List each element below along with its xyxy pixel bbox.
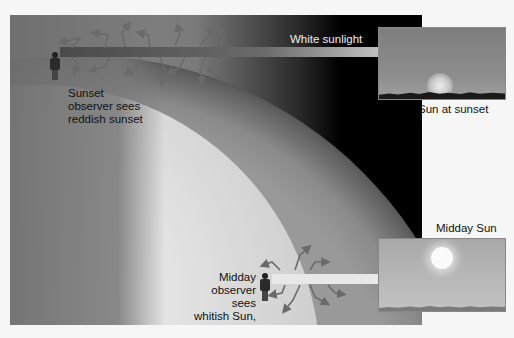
white-sunlight-label: White sunlight (290, 33, 362, 46)
sun-at-sunset-caption: Sun at sunset (418, 103, 488, 116)
sunset-observer-label: Sunset observer sees reddish sunset (68, 87, 143, 126)
sunset-inset-image (378, 27, 506, 100)
skyline-silhouette (379, 306, 505, 311)
midday-observer-label: Midday observer sees whitish Sun, blue s… (188, 271, 256, 325)
midday-observer-figure (260, 273, 270, 301)
sunset-observer-figure (50, 52, 60, 80)
midday-sun-caption: Midday Sun (436, 222, 497, 235)
diagram-panel: Sunset observer sees reddish sunset Midd… (10, 15, 422, 325)
midday-sun-icon (431, 247, 453, 269)
midday-inset-image (378, 238, 506, 312)
